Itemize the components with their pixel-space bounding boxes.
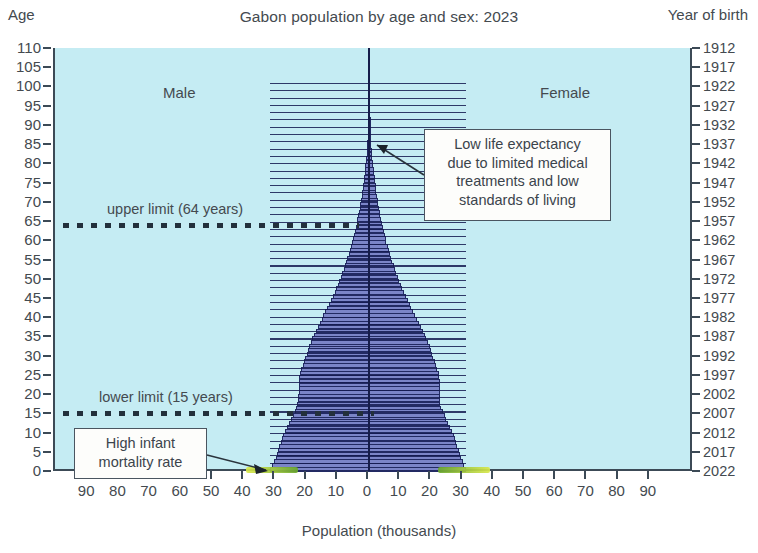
arrowhead-high-infant-mortality — [254, 464, 268, 474]
callout-leader-lines — [0, 0, 758, 553]
arrowhead-low-life-expectancy — [377, 145, 388, 154]
population-pyramid-figure: Age Year of birth Gabon population by ag… — [0, 0, 758, 553]
